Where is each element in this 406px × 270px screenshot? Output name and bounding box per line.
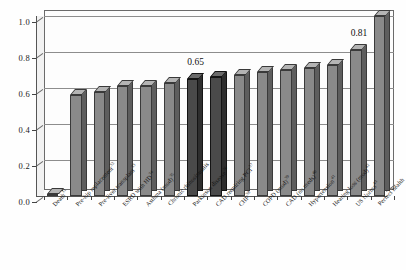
reference-superscript: 39 bbox=[283, 174, 290, 181]
y-axis-tick-label: 1.0 bbox=[18, 17, 30, 27]
bar-value-label: 0.65 bbox=[187, 57, 204, 67]
bar bbox=[257, 72, 269, 196]
y-axis-tick-label: 0.6 bbox=[18, 89, 30, 99]
bar-chart-figure: 0.00.20.40.60.81.0 0.650.81 Death31Pre-h… bbox=[0, 0, 406, 270]
y-axis-tick-label: 0.2 bbox=[18, 161, 30, 171]
y-axis-tick-label: 0.4 bbox=[18, 125, 30, 135]
plot-area: 0.00.20.40.60.81.0 0.650.81 bbox=[36, 10, 394, 198]
bar-front-face bbox=[374, 16, 386, 196]
bar-side-face bbox=[175, 78, 180, 191]
bar-series: 0.650.81 bbox=[36, 10, 394, 198]
reference-superscript: 34 bbox=[147, 169, 154, 176]
bar-side-face bbox=[268, 67, 273, 191]
bar-value-label: 0.81 bbox=[351, 28, 368, 38]
bar bbox=[374, 16, 386, 196]
bar bbox=[70, 95, 82, 196]
x-axis-category-labels: Death31Pre-hip replacement32Pre-liver tr… bbox=[36, 198, 406, 270]
bar-side-face bbox=[385, 11, 390, 191]
bar-front-face bbox=[257, 72, 269, 196]
bar-front-face bbox=[70, 95, 82, 196]
bar-side-face bbox=[338, 60, 343, 191]
bar-side-face bbox=[82, 90, 87, 191]
y-axis-tick-label: 0.0 bbox=[18, 197, 30, 207]
y-axis-tick-label: 0.8 bbox=[18, 53, 30, 63]
bar-side-face bbox=[292, 65, 297, 191]
